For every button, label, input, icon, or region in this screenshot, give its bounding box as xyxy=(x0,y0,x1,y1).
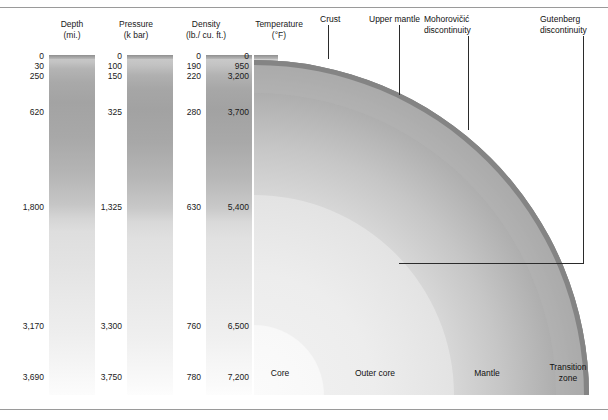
leader-line-crust xyxy=(328,25,329,59)
tick-density-190: 190 xyxy=(153,61,201,71)
callout-upper-mantle: Upper mantle xyxy=(369,14,420,25)
tick-depth-0: 0 xyxy=(0,51,44,61)
tick-density-220: 220 xyxy=(153,71,201,81)
zone-label-mantle: Mantle xyxy=(452,368,522,379)
tick-density-280: 280 xyxy=(153,107,201,117)
callout-mohorovicic-line1: Mohorovičić xyxy=(424,14,471,25)
callout-mohorovicic: Mohorovičić discontinuity xyxy=(424,14,471,35)
leader-line-gutenberg-vertical xyxy=(583,36,584,264)
callout-gutenberg: Gutenberg discontinuity xyxy=(540,14,587,35)
callout-gutenberg-line1: Gutenberg xyxy=(540,14,587,25)
tick-density-760: 760 xyxy=(153,321,201,331)
zone-label-outer-core: Outer core xyxy=(330,368,420,379)
tick-depth-620: 620 xyxy=(0,107,44,117)
tick-pressure-0: 0 xyxy=(74,51,122,61)
zone-label-transition-zone: Transition zone xyxy=(536,362,600,383)
tick-pressure-325: 325 xyxy=(74,107,122,117)
tick-density-780: 780 xyxy=(153,372,201,382)
leader-line-mohorovicic xyxy=(468,36,469,130)
tick-temperature-3700: 3,700 xyxy=(201,107,249,117)
tick-pressure-3300: 3,300 xyxy=(74,321,122,331)
tick-temperature-0: 0 xyxy=(201,51,249,61)
scale-column-pressure xyxy=(127,55,173,395)
callout-mohorovicic-line2: discontinuity xyxy=(424,25,471,36)
tick-depth-1800: 1,800 xyxy=(0,202,44,212)
earth-quarter-section xyxy=(254,55,598,395)
scale-bar-depth xyxy=(49,55,95,395)
frame-bottom-rule xyxy=(0,409,608,410)
tick-pressure-1325: 1,325 xyxy=(74,202,122,212)
tick-temperature-950: 950 xyxy=(201,61,249,71)
zone-label-transition-zone-line1: Transition xyxy=(536,362,600,373)
tick-depth-3170: 3,170 xyxy=(0,321,44,331)
scale-bar-pressure xyxy=(127,55,173,395)
earth-layers-svg xyxy=(254,55,598,395)
zone-label-core: Core xyxy=(250,368,310,379)
leader-line-gutenberg-horizontal xyxy=(399,263,584,264)
zone-label-transition-zone-line2: zone xyxy=(536,373,600,384)
tick-depth-3690: 3,690 xyxy=(0,372,44,382)
scale-column-depth xyxy=(49,55,95,395)
frame-top-rule xyxy=(0,7,608,8)
tick-density-630: 630 xyxy=(153,202,201,212)
tick-depth-30: 30 xyxy=(0,61,44,71)
tick-pressure-100: 100 xyxy=(74,61,122,71)
earth-cross-section-figure: Depth (mi.) 0 30 250 620 1,800 3,170 3,6… xyxy=(0,0,608,420)
tick-temperature-3200: 3,200 xyxy=(201,71,249,81)
tick-density-0: 0 xyxy=(153,51,201,61)
tick-temperature-5400: 5,400 xyxy=(201,202,249,212)
callout-gutenberg-line2: discontinuity xyxy=(540,25,587,36)
callout-crust: Crust xyxy=(320,14,340,25)
scale-column-density xyxy=(206,55,252,395)
column-header-temperature-line2: (°F) xyxy=(219,30,339,41)
leader-line-upper-mantle xyxy=(399,25,400,95)
tick-pressure-150: 150 xyxy=(74,71,122,81)
tick-depth-250: 250 xyxy=(0,71,44,81)
tick-temperature-6500: 6,500 xyxy=(201,321,249,331)
tick-pressure-3750: 3,750 xyxy=(74,372,122,382)
tick-temperature-7200: 7,200 xyxy=(201,372,249,382)
scale-bar-density xyxy=(206,55,252,395)
